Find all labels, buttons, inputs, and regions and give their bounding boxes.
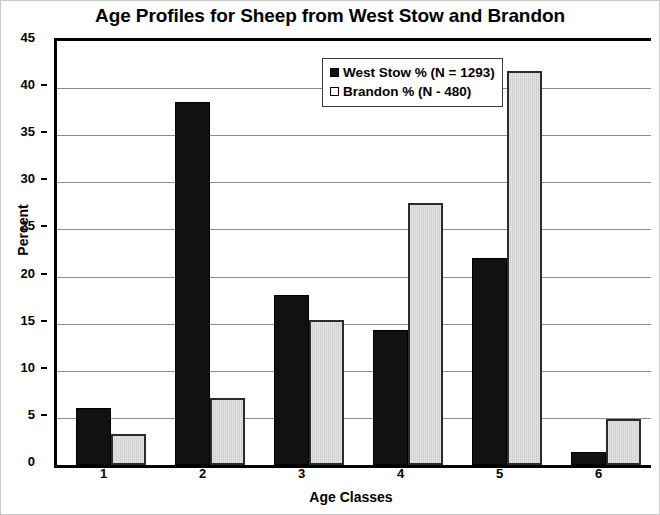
y-tick-mark — [41, 225, 47, 227]
y-tick-mark — [41, 367, 47, 369]
bar-west-stow — [76, 408, 111, 465]
bar-chart: Age Profiles for Sheep from West Stow an… — [0, 0, 660, 515]
bar-west-stow — [274, 295, 309, 465]
chart-title: Age Profiles for Sheep from West Stow an… — [0, 5, 660, 27]
x-tick-label: 4 — [351, 466, 450, 482]
x-tick-label: 5 — [450, 466, 549, 482]
bar-brandon — [408, 203, 443, 465]
bar-west-stow — [373, 330, 408, 465]
chart-legend: West Stow % (N = 1293)Brandon % (N - 480… — [322, 58, 503, 107]
x-axis-title: Age Classes — [54, 489, 648, 505]
y-tick-label: 30 — [0, 172, 35, 185]
bar-brandon — [309, 320, 344, 465]
x-tick-label: 3 — [252, 466, 351, 482]
y-tick-label: 25 — [0, 219, 35, 232]
y-tick-label: 35 — [0, 125, 35, 138]
y-tick-mark — [41, 84, 47, 86]
x-axis: 123456 — [54, 466, 648, 488]
y-tick-mark — [41, 320, 47, 322]
y-tick-label: 0 — [0, 455, 35, 468]
legend-label: West Stow % (N = 1293) — [343, 66, 495, 80]
bar-group — [156, 41, 255, 465]
x-tick-label: 6 — [549, 466, 648, 482]
bar-west-stow — [175, 102, 210, 465]
legend-swatch-filled-square-icon — [330, 68, 339, 77]
y-tick-mark — [41, 131, 47, 133]
legend-item: West Stow % (N = 1293) — [330, 63, 495, 82]
y-tick-label: 5 — [0, 408, 35, 421]
legend-label: Brandon % (N - 480) — [343, 85, 471, 99]
x-tick-label: 2 — [153, 466, 252, 482]
bar-west-stow — [472, 258, 507, 465]
bar-brandon — [111, 434, 146, 465]
legend-item: Brandon % (N - 480) — [330, 82, 495, 101]
legend-swatch-open-square-icon — [330, 87, 339, 96]
y-tick-label: 45 — [0, 31, 35, 44]
y-axis: 051015202530354045 — [0, 38, 47, 462]
y-tick-label: 40 — [0, 78, 35, 91]
y-tick-mark — [41, 178, 47, 180]
x-tick-label: 1 — [54, 466, 153, 482]
bar-brandon — [606, 419, 641, 465]
y-tick-mark — [41, 414, 47, 416]
bar-group — [552, 41, 651, 465]
bar-brandon — [507, 71, 542, 465]
y-tick-mark — [41, 273, 47, 275]
bar-west-stow — [571, 452, 606, 465]
y-tick-label: 20 — [0, 267, 35, 280]
bar-group — [57, 41, 156, 465]
y-tick-label: 15 — [0, 314, 35, 327]
bar-brandon — [210, 398, 245, 465]
y-tick-label: 10 — [0, 361, 35, 374]
